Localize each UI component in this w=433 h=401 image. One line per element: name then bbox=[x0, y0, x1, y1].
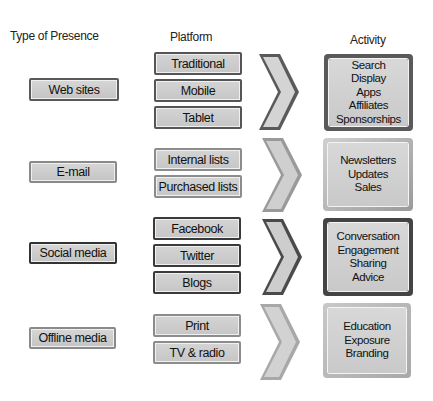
chevron-right-icon bbox=[261, 218, 303, 296]
header-type-of-presence: Type of Presence bbox=[10, 29, 99, 43]
platform-traditional: Traditional bbox=[154, 52, 242, 75]
activity-item: Search bbox=[351, 59, 385, 73]
platform-mobile: Mobile bbox=[154, 79, 242, 102]
platform-twitter: Twitter bbox=[153, 244, 241, 267]
platform-facebook: Facebook bbox=[153, 217, 241, 240]
activity-box-social-media: Conversation Engagement Sharing Advice bbox=[323, 218, 413, 296]
chevron-right-icon bbox=[258, 53, 300, 131]
activity-item: Conversation bbox=[337, 230, 400, 244]
chevron-right-icon bbox=[261, 137, 303, 213]
platform-tv-radio: TV & radio bbox=[153, 341, 241, 364]
activity-item: Advice bbox=[352, 271, 384, 285]
activity-item: Sales bbox=[355, 181, 382, 195]
activity-item: Education bbox=[343, 320, 391, 334]
platform-internal-lists: Internal lists bbox=[154, 148, 242, 171]
type-social-media: Social media bbox=[29, 242, 117, 264]
activity-item: Apps bbox=[356, 86, 381, 100]
platform-blogs: Blogs bbox=[153, 271, 241, 294]
activity-box-e-mail: Newsletters Updates Sales bbox=[323, 138, 413, 211]
platform-purchased-lists: Purchased lists bbox=[154, 175, 242, 198]
chevron-right-icon bbox=[259, 303, 301, 381]
activity-item: Sharing bbox=[350, 257, 387, 271]
activity-item: Display bbox=[351, 72, 386, 86]
type-offline-media: Offline media bbox=[29, 327, 116, 349]
header-platform: Platform bbox=[170, 30, 212, 44]
activity-item: Exposure bbox=[344, 334, 389, 348]
activity-item: Engagement bbox=[337, 244, 398, 258]
activity-item: Branding bbox=[346, 347, 389, 361]
activity-item: Updates bbox=[348, 168, 388, 182]
activity-item: Sponsorships bbox=[336, 113, 401, 127]
type-e-mail: E-mail bbox=[29, 161, 117, 183]
activity-item: Newsletters bbox=[340, 154, 396, 168]
header-activity: Activity bbox=[350, 33, 386, 47]
activity-item: Affiliates bbox=[349, 99, 388, 113]
platform-tablet: Tablet bbox=[154, 106, 242, 129]
type-web-sites: Web sites bbox=[29, 78, 119, 101]
activity-box-offline-media: Education Exposure Branding bbox=[323, 303, 411, 378]
platform-print: Print bbox=[153, 314, 241, 337]
activity-box-web-sites: Search Display Apps Affiliates Sponsorsh… bbox=[324, 54, 413, 131]
